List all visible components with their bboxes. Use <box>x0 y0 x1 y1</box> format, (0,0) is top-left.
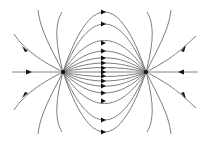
field-line-diagram <box>0 0 212 143</box>
right-charge <box>144 70 148 74</box>
left-charge <box>61 70 65 74</box>
